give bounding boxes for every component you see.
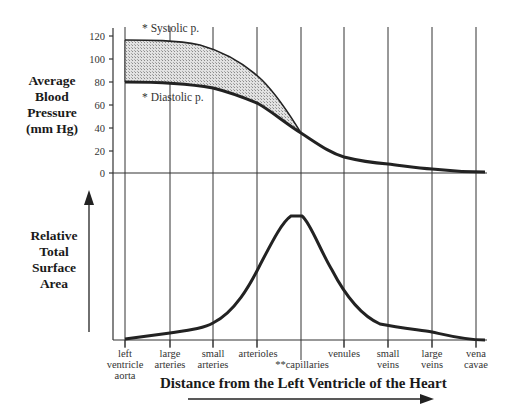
category-line: arteries xyxy=(183,359,243,370)
svg-text:40: 40 xyxy=(95,123,106,134)
ylabel-line: Surface xyxy=(22,260,86,276)
category-capillaries: **capillaries xyxy=(266,359,338,370)
x-axis-title: Distance from the Left Ventricle of the … xyxy=(160,375,500,392)
y-axis xyxy=(109,28,113,340)
ylabel-line: Blood xyxy=(14,89,90,105)
systolic-annotation: * Systolic p. xyxy=(142,22,199,34)
svg-text:120: 120 xyxy=(89,31,105,42)
surface-area-axis-label: Relative Total Surface Area xyxy=(22,228,86,292)
surface-area-curve xyxy=(125,216,485,340)
category-line: vena xyxy=(446,348,506,359)
category-line: aorta xyxy=(95,370,155,381)
svg-text:100: 100 xyxy=(89,54,105,65)
y-tick-labels: 120 100 80 60 40 20 0 xyxy=(89,31,105,179)
right-arrow-icon xyxy=(188,394,434,404)
svg-text:0: 0 xyxy=(100,168,105,179)
svg-text:80: 80 xyxy=(95,77,106,88)
svg-text:20: 20 xyxy=(95,146,106,157)
ylabel-line: Area xyxy=(22,276,86,292)
category-vena-cavae: vena cavae xyxy=(446,348,506,370)
ylabel-line: Total xyxy=(22,244,86,260)
category-line: cavae xyxy=(446,359,506,370)
ylabel-line: Average xyxy=(14,73,90,89)
ylabel-line: (mm Hg) xyxy=(14,121,90,137)
diastolic-annotation: * Diastolic p. xyxy=(142,91,204,103)
category-line: arterioles xyxy=(228,348,288,359)
svg-text:60: 60 xyxy=(95,100,106,111)
category-arterioles: arterioles xyxy=(228,348,288,359)
blood-pressure-axis-label: Average Blood Pressure (mm Hg) xyxy=(14,73,90,137)
category-line: **capillaries xyxy=(266,359,338,370)
ylabel-line: Relative xyxy=(22,228,86,244)
ylabel-line: Pressure xyxy=(14,105,90,121)
